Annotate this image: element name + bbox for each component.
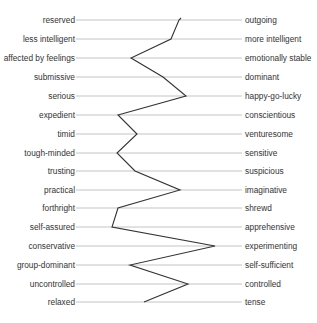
right-trait-label: conscientious bbox=[245, 110, 295, 120]
left-trait-label: expedient bbox=[39, 110, 75, 120]
right-trait-label: more intelligent bbox=[245, 34, 301, 44]
right-trait-label: happy-go-lucky bbox=[245, 91, 301, 101]
left-trait-label: timid bbox=[57, 129, 75, 139]
right-trait-label: outgoing bbox=[245, 15, 277, 25]
right-trait-label: imaginative bbox=[245, 185, 287, 195]
left-trait-label: reserved bbox=[43, 15, 75, 25]
right-trait-label: apprehensive bbox=[245, 222, 295, 232]
left-trait-label: group-dominant bbox=[17, 260, 75, 270]
right-trait-label: controlled bbox=[245, 279, 281, 289]
left-trait-label: conservative bbox=[28, 241, 75, 251]
left-trait-label: forthright bbox=[42, 203, 75, 213]
trait-lines bbox=[76, 20, 242, 302]
profile-line bbox=[112, 18, 215, 302]
right-trait-label: self-sufficient bbox=[245, 260, 293, 270]
personality-profile-chart bbox=[0, 0, 317, 323]
right-trait-label: venturesome bbox=[245, 129, 293, 139]
right-trait-label: shrewd bbox=[245, 203, 272, 213]
left-trait-label: submissive bbox=[34, 72, 75, 82]
left-trait-label: uncontrolled bbox=[30, 279, 75, 289]
left-trait-label: affected by feelings bbox=[4, 53, 75, 63]
left-trait-label: tough-minded bbox=[24, 148, 75, 158]
right-trait-label: dominant bbox=[245, 72, 279, 82]
left-trait-label: serious bbox=[48, 91, 75, 101]
left-trait-label: trusting bbox=[48, 166, 75, 176]
left-trait-label: self-assured bbox=[30, 222, 75, 232]
right-trait-label: experimenting bbox=[245, 241, 297, 251]
right-trait-label: sensitive bbox=[245, 148, 277, 158]
right-trait-label: tense bbox=[245, 297, 265, 307]
left-trait-label: relaxed bbox=[48, 297, 75, 307]
left-trait-label: less intelligent bbox=[23, 34, 75, 44]
right-trait-label: emotionally stable bbox=[245, 53, 311, 63]
right-trait-label: suspicious bbox=[245, 166, 284, 176]
left-trait-label: practical bbox=[44, 185, 75, 195]
